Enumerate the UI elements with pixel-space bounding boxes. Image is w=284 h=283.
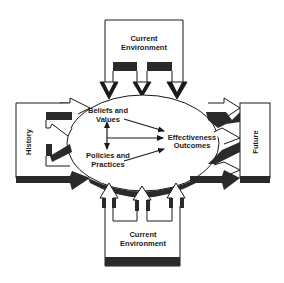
bottom-environment-label-line2: Environment: [120, 239, 166, 248]
future-label: Future: [251, 130, 260, 153]
top-dark-band-right: [147, 62, 172, 71]
organizational-culture-diagram: Current Environment History: [0, 0, 284, 283]
arrow-down-3: [167, 82, 187, 99]
history-dark-band-lower: [46, 144, 52, 156]
beliefs-label-line2: Values: [96, 115, 120, 124]
outcomes-label-line2: Outcomes: [174, 141, 211, 150]
history-label: History: [24, 128, 33, 155]
bottom-environment-label-line1: Current: [129, 230, 157, 239]
history-bottom-band: [16, 176, 72, 183]
top-dark-band-left: [113, 62, 137, 71]
policies-label-line1: Policies and: [86, 151, 130, 160]
policies-label-line2: Practices: [91, 160, 124, 169]
bottom-environment-group: Current Environment: [100, 183, 185, 266]
beliefs-label-line1: Beliefs and: [88, 106, 128, 115]
history-arrow-mid: [50, 124, 72, 136]
top-environment-group: Current Environment: [100, 20, 187, 99]
history-arrow-lower: [50, 144, 72, 162]
future-bottom-band: [240, 176, 270, 183]
top-environment-label-line1: Current: [130, 34, 158, 43]
bottom-dark-band: [105, 257, 180, 266]
arrow-down-1: [100, 82, 118, 99]
top-environment-label-line2: Environment: [121, 43, 167, 52]
future-band-right: [190, 176, 226, 183]
history-dark-band-upper: [46, 112, 72, 120]
